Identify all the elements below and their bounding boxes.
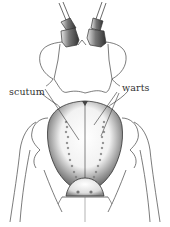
antenna-bases [61, 18, 106, 47]
thorax-diagram: scutum warts [0, 0, 170, 227]
scutellum [58, 178, 112, 222]
head-outline [40, 40, 126, 86]
label-scutum: scutum [9, 87, 45, 97]
diagram-illustration [0, 0, 170, 227]
label-warts: warts [122, 83, 150, 93]
antennae [59, 2, 106, 20]
